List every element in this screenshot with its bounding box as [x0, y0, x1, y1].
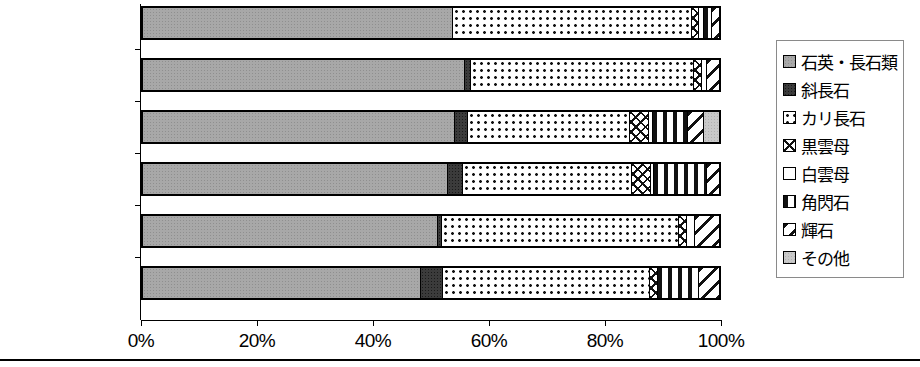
- plot-area: [141, 4, 721, 310]
- x-axis-tick: [141, 320, 142, 326]
- legend-item-label: カリ長石: [801, 105, 865, 130]
- x-axis-tick: [489, 320, 490, 326]
- bar-segment: [678, 216, 686, 246]
- bar-segment: [657, 268, 698, 298]
- bar-segment: [143, 8, 452, 38]
- legend-swatch-icon: [783, 223, 796, 236]
- bottom-rule: [0, 359, 920, 361]
- bar-segment: [693, 60, 701, 90]
- bar-segment: [698, 268, 719, 298]
- bar-row: [141, 110, 721, 144]
- legend-item: 黒雲母: [783, 131, 897, 159]
- x-axis-line: [141, 320, 722, 321]
- bar-segment: [703, 8, 711, 38]
- bar-segment: [447, 164, 462, 194]
- bar-segment: [711, 8, 718, 38]
- bar-segment: [652, 112, 687, 142]
- bar-segment: [629, 112, 649, 142]
- legend-item-label: 角閃石: [801, 189, 849, 214]
- bar-segment: [706, 60, 719, 90]
- legend-swatch-icon: [783, 55, 796, 68]
- legend-item-label: 石英・長石類: [801, 49, 897, 74]
- bar-segment: [143, 164, 447, 194]
- x-axis-tick-label: 40%: [355, 330, 392, 352]
- legend-item: 斜長石: [783, 75, 897, 103]
- legend-item-label: 白雲母: [801, 161, 849, 186]
- bar-segment: [143, 268, 420, 298]
- bar-row: [141, 214, 721, 248]
- bar-segment: [649, 268, 657, 298]
- x-axis-tick: [257, 320, 258, 326]
- bar-row: [141, 162, 721, 196]
- bar-segment: [631, 164, 651, 194]
- bar-segment: [653, 164, 705, 194]
- legend-item: 角閃石: [783, 187, 897, 215]
- bar-segment: [687, 112, 703, 142]
- legend-item-label: 斜長石: [801, 77, 849, 102]
- bar-segment: [470, 60, 693, 90]
- legend-item-label: 輝石: [801, 217, 833, 242]
- legend-item: その他: [783, 243, 897, 271]
- x-axis-tick: [373, 320, 374, 326]
- bar-segment: [143, 112, 454, 142]
- legend-swatch-icon: [783, 139, 796, 152]
- bar-segment: [441, 216, 678, 246]
- bar-row: [141, 58, 721, 92]
- legend-item: 石英・長石類: [783, 47, 897, 75]
- bar-segment: [694, 216, 719, 246]
- bar-segment: [420, 268, 442, 298]
- bar-segment: [703, 112, 719, 142]
- bar-row: [141, 266, 721, 300]
- legend-swatch-icon: [783, 167, 796, 180]
- legend-swatch-icon: [783, 251, 796, 264]
- x-axis-tick-label: 100%: [698, 330, 745, 352]
- x-axis-tick-label: 60%: [471, 330, 508, 352]
- bar-segment: [706, 164, 719, 194]
- bar-segment: [442, 268, 649, 298]
- x-axis-tick: [721, 320, 722, 326]
- legend-item-label: 黒雲母: [801, 133, 849, 158]
- x-axis-tick-label: 80%: [587, 330, 624, 352]
- bar-segment: [467, 112, 629, 142]
- bar-segment: [686, 216, 694, 246]
- bar-row: [141, 6, 721, 40]
- x-axis-tick-label: 0%: [128, 330, 154, 352]
- legend-item-label: その他: [801, 245, 849, 270]
- x-axis-tick: [605, 320, 606, 326]
- bar-segment: [691, 8, 698, 38]
- legend-item: カリ長石: [783, 103, 897, 131]
- legend: 石英・長石類斜長石カリ長石黒雲母白雲母角閃石輝石その他: [776, 40, 904, 278]
- bar-segment: [143, 216, 437, 246]
- legend-swatch-icon: [783, 111, 796, 124]
- bar-segment: [454, 112, 467, 142]
- bar-segment: [462, 164, 631, 194]
- legend-item: 輝石: [783, 215, 897, 243]
- stacked-bar-chart: 三根29三根1下ガヤノキ2下ガヤノキ1大田原ヤモト1大田原ヤモト2 0%20%4…: [0, 0, 760, 367]
- x-axis-tick-label: 20%: [239, 330, 276, 352]
- bar-segment: [452, 8, 692, 38]
- legend-swatch-icon: [783, 83, 796, 96]
- legend-item: 白雲母: [783, 159, 897, 187]
- bar-segment: [143, 60, 464, 90]
- legend-swatch-icon: [783, 195, 796, 208]
